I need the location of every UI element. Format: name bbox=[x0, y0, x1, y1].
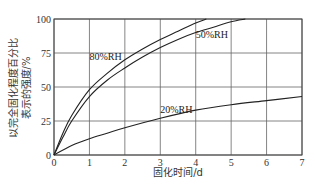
y-axis-title-line-1: 以完全固化程度百分比 bbox=[7, 38, 19, 138]
series-label: 50%RH bbox=[196, 29, 228, 40]
series-label: 20%RH bbox=[160, 104, 192, 115]
y-axis-title-line-2: 表示的强度/% bbox=[20, 57, 32, 120]
x-tick-label: 2 bbox=[122, 157, 127, 168]
y-tick-label: 50 bbox=[41, 82, 51, 93]
x-tick-label: 5 bbox=[229, 157, 234, 168]
x-axis-title: 固化时间/d bbox=[153, 166, 203, 178]
y-tick-label: 25 bbox=[41, 116, 51, 127]
y-axis-ticks: 0255075100 bbox=[36, 14, 51, 161]
chart: 80%RH50%RH20%RH 01234567 0255075100 固化时间… bbox=[0, 0, 315, 184]
y-tick-label: 100 bbox=[36, 14, 51, 25]
x-tick-label: 1 bbox=[87, 157, 92, 168]
y-tick-label: 75 bbox=[41, 48, 51, 59]
x-tick-label: 6 bbox=[264, 157, 269, 168]
series-label: 80%RH bbox=[89, 51, 121, 62]
x-tick-label: 0 bbox=[52, 157, 57, 168]
y-tick-label: 0 bbox=[46, 150, 51, 161]
annotations: 80%RH50%RH20%RH bbox=[89, 29, 228, 115]
x-tick-label: 7 bbox=[300, 157, 305, 168]
